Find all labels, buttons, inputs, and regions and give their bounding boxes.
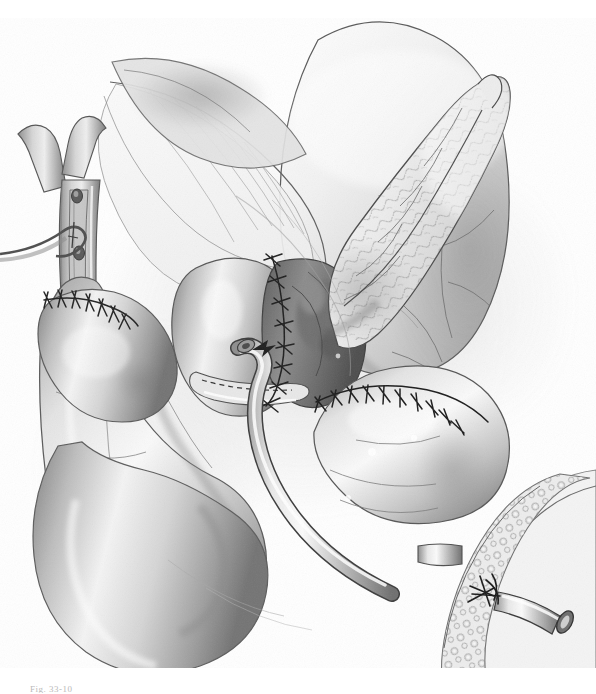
vessel-stump bbox=[418, 544, 462, 566]
illustration-canvas: Fig. 33-10 bbox=[0, 0, 596, 694]
figure-caption: Fig. 33-10 bbox=[30, 684, 73, 693]
surgical-illustration bbox=[0, 0, 596, 694]
